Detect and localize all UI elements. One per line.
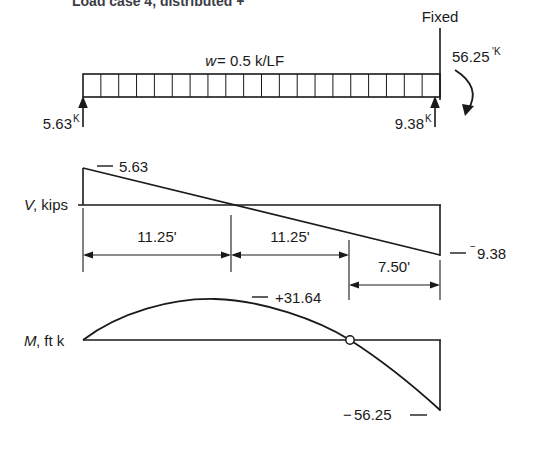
distributed-load-symbol: w (205, 52, 217, 69)
right-reaction-unit: K (425, 113, 432, 124)
shear-axis-label-units: , kips (33, 196, 68, 213)
figure-title-clipped: Load case 4, distributed + (72, 0, 244, 9)
moment-min-value: 56.25 (354, 406, 392, 423)
beam-shear-moment-figure: Load case 4, distributed + w = 0.5 k/LF (0, 0, 540, 454)
right-reaction-value: 9.38 (395, 115, 424, 132)
moment-axis-label-units: , ft k (36, 332, 65, 349)
distributed-load-value: = 0.5 k/LF (217, 52, 284, 69)
dimension-7-50-text: 7.50' (378, 258, 410, 275)
fixed-end-moment-unit: 'K (492, 46, 501, 57)
moment-min-sign: − (343, 406, 352, 423)
dimension-11-25-left-text: 11.25' (137, 228, 176, 245)
dimension-11-25-right-text: 11.25' (270, 228, 309, 245)
shear-max-value: 5.63 (119, 158, 148, 175)
moment-max-value: +31.64 (275, 289, 321, 306)
shear-min-value: 9.38 (477, 245, 506, 262)
moment-zero-crossing-marker (346, 336, 354, 344)
left-reaction-value: 5.63 (43, 115, 72, 132)
figure-title-text: Load case 4, distributed + (72, 0, 244, 9)
left-reaction-unit: K (73, 113, 80, 124)
fixed-support-label: Fixed (422, 8, 459, 25)
shear-min-sign: − (470, 241, 476, 252)
fixed-end-moment-value: 56.25 (452, 48, 490, 65)
